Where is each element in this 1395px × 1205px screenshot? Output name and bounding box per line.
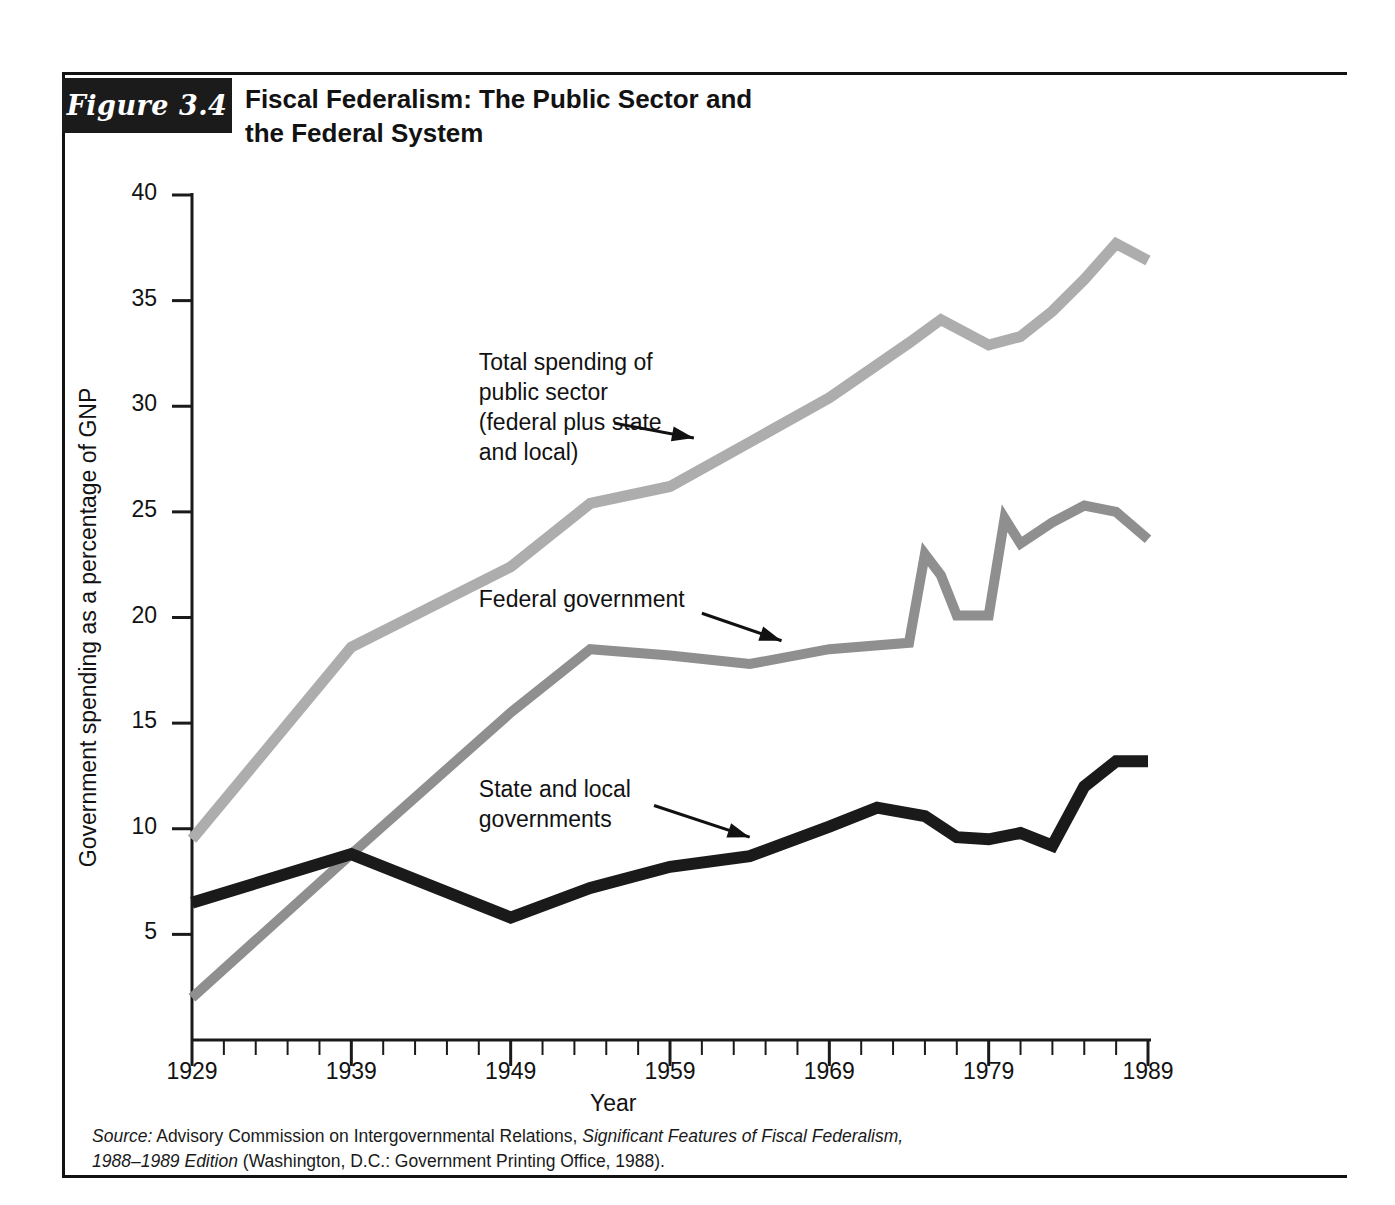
x-axis-tick-label: 1949 xyxy=(466,1058,556,1085)
source-text-2: (Washington, D.C.: Government Printing O… xyxy=(238,1151,665,1171)
x-axis-tick-label: 1969 xyxy=(784,1058,874,1085)
source-text-1: Advisory Commission on Intergovernmental… xyxy=(152,1126,582,1146)
x-axis-tick-label: 1959 xyxy=(625,1058,715,1085)
source-note: Source: Advisory Commission on Intergove… xyxy=(92,1124,1272,1175)
y-axis-tick-label: 20 xyxy=(97,602,157,629)
total-spending-annotation: Total spending of public sector (federal… xyxy=(479,348,662,468)
y-axis-tick-label: 10 xyxy=(97,813,157,840)
x-axis-tick-label: 1939 xyxy=(306,1058,396,1085)
state-and-local-annotation: State and local governments xyxy=(479,775,631,835)
y-axis-tick-label: 40 xyxy=(97,179,157,206)
y-axis-tick-label: 5 xyxy=(97,918,157,945)
line-chart xyxy=(0,0,1395,1205)
source-italic-2: 1988–1989 Edition xyxy=(92,1151,238,1171)
y-axis-tick-label: 30 xyxy=(97,390,157,417)
federal-government-annotation-arrow-head xyxy=(758,626,781,640)
series-line-2 xyxy=(192,761,1148,917)
y-axis-tick-label: 35 xyxy=(97,285,157,312)
state-and-local-annotation-arrow-head xyxy=(726,823,749,837)
federal-government-annotation: Federal government xyxy=(479,585,685,615)
source-prefix: Source: xyxy=(92,1126,152,1146)
series-line-1 xyxy=(192,506,1148,998)
total-spending-annotation-arrow-head xyxy=(671,427,694,442)
x-axis-tick-label: 1989 xyxy=(1103,1058,1193,1085)
x-axis-tick-label: 1979 xyxy=(944,1058,1034,1085)
source-italic-1: Significant Features of Fiscal Federalis… xyxy=(582,1126,903,1146)
y-axis-tick-label: 15 xyxy=(97,707,157,734)
chart-plot-area xyxy=(0,0,1395,1205)
figure-container: Figure 3.4 Fiscal Federalism: The Public… xyxy=(0,0,1395,1205)
y-axis-tick-label: 25 xyxy=(97,496,157,523)
x-axis-tick-label: 1929 xyxy=(147,1058,237,1085)
